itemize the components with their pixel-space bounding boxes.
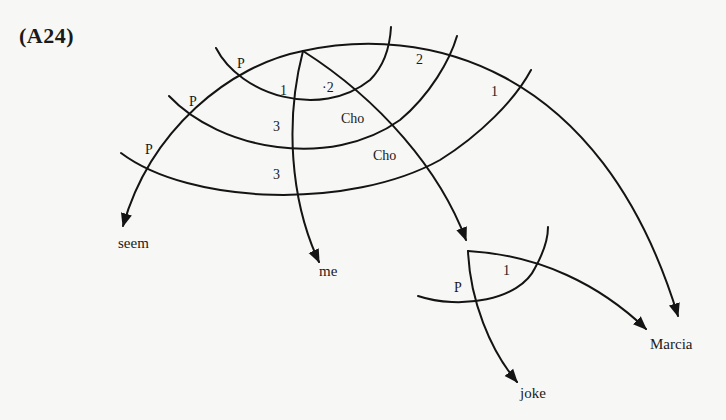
label-1-sub: 1 (503, 263, 510, 278)
label-3-lower: 3 (273, 167, 280, 182)
node-marcia: Marcia (650, 336, 693, 352)
edge-subnode-to-marcia (468, 251, 646, 329)
node-seem: seem (118, 235, 149, 251)
label-2-outer: 2 (416, 52, 423, 67)
label-cho-upper: Cho (341, 111, 364, 126)
node-joke: joke (519, 385, 546, 401)
label-2-inner: ·2 (322, 80, 334, 95)
label-1-right: 1 (491, 84, 498, 99)
label-p-low: P (145, 142, 153, 157)
arc-p-mid (169, 36, 457, 149)
arc-sub (418, 227, 548, 302)
node-me: me (319, 263, 338, 279)
relational-network-diagram: P P P 1 ·2 2 1 3 3 Cho Cho P 1 seem me j… (0, 0, 726, 420)
label-p-top: P (237, 56, 245, 71)
label-cho-lower: Cho (373, 148, 396, 163)
label-p-mid: P (189, 94, 197, 109)
label-3-upper: 3 (273, 119, 280, 134)
label-1-left: 1 (280, 83, 287, 98)
label-p-sub: P (454, 280, 462, 295)
edge-apex-to-seem (123, 51, 303, 226)
edge-apex-to-me (292, 51, 319, 262)
